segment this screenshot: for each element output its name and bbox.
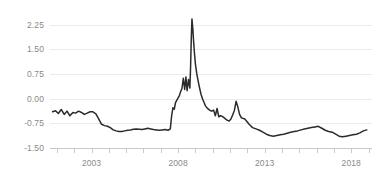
y-axis-tick-label: -1.50 [24, 143, 44, 153]
y-axis-tick-label: 2.25 [27, 20, 44, 30]
chart-canvas: 2.251.500.750.00-0.75-1.50 2003200820132… [0, 0, 382, 190]
x-axis-tick-label: 2003 [82, 158, 101, 168]
data-series-line [53, 19, 367, 137]
x-tick-marks-group [58, 149, 370, 153]
x-axis-tick-label: 2013 [255, 158, 274, 168]
y-axis-tick-label: -0.75 [24, 118, 44, 128]
x-axis-tick-label: 2018 [342, 158, 361, 168]
x-axis-labels-group: 2003200820132018 [82, 158, 361, 168]
y-axis-tick-label: 0.75 [27, 69, 44, 79]
y-axis-labels-group: 2.251.500.750.00-0.75-1.50 [24, 20, 44, 153]
line-chart: 2.251.500.750.00-0.75-1.50 2003200820132… [0, 0, 382, 190]
x-axis-tick-label: 2008 [168, 158, 187, 168]
y-axis-tick-label: 1.50 [27, 44, 44, 54]
y-axis-tick-label: 0.00 [27, 94, 44, 104]
gridlines-group [50, 26, 372, 124]
